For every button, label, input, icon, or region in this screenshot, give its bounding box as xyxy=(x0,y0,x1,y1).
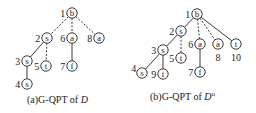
node-number: 6 xyxy=(60,33,65,44)
tree-node-7: f7 xyxy=(188,67,205,78)
tree-node-5: t5 xyxy=(34,61,51,72)
node-number: 5 xyxy=(169,53,174,64)
node-number: 1 xyxy=(60,8,65,19)
edge-dashed-1-8 xyxy=(200,18,215,39)
node-label: f xyxy=(71,61,74,71)
node-label: a xyxy=(97,33,101,43)
node-label: b xyxy=(70,8,75,18)
node-number: 9 xyxy=(151,69,156,80)
node-label: a xyxy=(216,39,220,49)
node-number: 7 xyxy=(188,67,193,78)
caption-variable: D xyxy=(80,94,89,105)
figure-b-gqpt-of-du: b1s2a6a8t10s3t5s4t9f7 xyxy=(131,9,241,80)
node-label: a xyxy=(198,39,202,49)
node-label: s xyxy=(25,79,29,89)
tree-node-6: a6 xyxy=(188,39,205,50)
node-label: s xyxy=(161,45,165,55)
tree-node-3: s3 xyxy=(151,45,168,56)
node-label: s xyxy=(25,56,29,66)
tree-node-6: a6 xyxy=(60,33,77,44)
node-number: 10 xyxy=(231,52,241,63)
caption-superscript: u xyxy=(212,90,216,98)
edge-dashed-2-5 xyxy=(46,43,47,61)
tree-node-1: b1 xyxy=(185,9,202,20)
edge-solid-2-3 xyxy=(30,42,43,57)
tree-node-8: a8 xyxy=(213,39,223,63)
figure-a-gqpt-of-d: b1s2a6a8s3t5f7s4 xyxy=(15,8,104,90)
tree-node-3: s3 xyxy=(15,56,32,67)
tree-node-10: t10 xyxy=(231,39,241,63)
node-number: 4 xyxy=(131,63,136,74)
tree-node-7: f7 xyxy=(60,61,77,72)
caption-b: (b)G-QPT of Du xyxy=(150,90,216,103)
node-number: 8 xyxy=(216,52,221,63)
tree-node-8: a8 xyxy=(87,33,104,44)
tree-node-9: t9 xyxy=(151,69,168,80)
node-label: s xyxy=(45,33,49,43)
tree-node-2: s2 xyxy=(169,26,186,37)
node-number: 4 xyxy=(15,79,20,90)
node-number: 1 xyxy=(185,9,190,20)
caption-prefix: (a)G-QPT of xyxy=(27,94,81,106)
caption-prefix: (b)G-QPT of xyxy=(150,91,204,103)
edge-dashed-1-6 xyxy=(198,19,200,39)
node-label: a xyxy=(70,33,74,43)
node-number: 6 xyxy=(188,39,193,50)
tree-node-2: s2 xyxy=(35,33,52,44)
node-label: s xyxy=(140,68,144,78)
edge-solid-3-4 xyxy=(146,54,160,69)
tree-node-4: s4 xyxy=(131,63,147,79)
edge-solid-1-10 xyxy=(201,17,232,41)
tree-node-4: s4 xyxy=(15,79,32,90)
node-number: 5 xyxy=(34,61,39,72)
tree-node-5: t5 xyxy=(169,53,186,64)
node-number: 2 xyxy=(35,33,40,44)
diagram-canvas: b1s2a6a8s3t5f7s4 b1s2a6a8t10s3t5s4t9f7 (… xyxy=(0,0,256,113)
tree-node-1: b1 xyxy=(60,8,77,19)
node-label: s xyxy=(179,26,183,36)
node-number: 3 xyxy=(151,45,156,56)
node-number: 2 xyxy=(169,26,174,37)
node-number: 8 xyxy=(87,33,92,44)
node-label: f xyxy=(199,67,202,77)
caption-a: (a)G-QPT of D xyxy=(27,94,89,106)
node-number: 7 xyxy=(60,61,65,72)
node-number: 3 xyxy=(15,56,20,67)
node-label: b xyxy=(195,9,200,19)
